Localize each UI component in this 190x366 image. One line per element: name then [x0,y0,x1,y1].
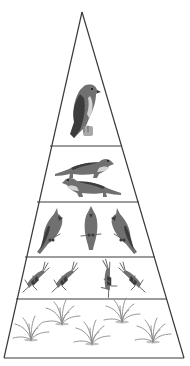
grass-icon [74,320,110,346]
weasel-icon [55,159,114,178]
grasshopper-icon [52,262,78,292]
level-hawk [70,85,101,138]
weasel-icon [62,178,121,197]
level-grass [13,298,171,346]
level-grasshoppers [23,258,145,298]
hawk-icon [70,85,101,138]
cardinal-icon [81,206,101,250]
grasshopper-icon [119,262,145,292]
level-cardinals [37,206,137,254]
grass-icon [13,316,49,342]
grasshopper-icon [23,262,49,292]
food-pyramid [0,0,190,366]
cardinal-icon [37,208,63,254]
grass-icon [135,318,171,344]
grass-icon [104,298,140,324]
level-weasels [55,159,121,197]
grass-icon [44,300,80,326]
cardinal-icon [111,208,137,254]
